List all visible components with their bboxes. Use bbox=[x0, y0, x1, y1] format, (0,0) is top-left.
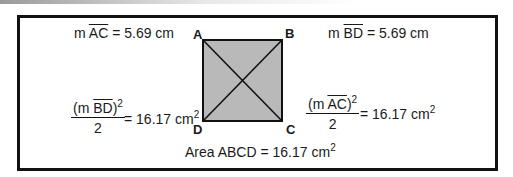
vertex-b-label: B bbox=[285, 27, 294, 41]
segment-ac: AC bbox=[89, 25, 108, 41]
measure-ac: m AC = 5.69 cm bbox=[74, 25, 174, 41]
segment-bd: BD bbox=[344, 25, 363, 41]
formula-left-result: = 16.17 cm2 bbox=[124, 111, 199, 127]
measure-bd-value: = 5.69 cm bbox=[367, 25, 429, 41]
measure-ac-prefix: m bbox=[74, 25, 86, 41]
formula-right-result: = 16.17 cm2 bbox=[360, 106, 435, 122]
vertex-c-label: C bbox=[286, 123, 295, 137]
formula-right-fraction: (m AC)2 2 bbox=[306, 96, 359, 132]
formula-right-numerator: (m AC)2 bbox=[306, 96, 359, 114]
formula-right-denominator: 2 bbox=[306, 114, 359, 132]
measure-bd-prefix: m bbox=[328, 25, 340, 41]
area-statement: Area ABCD = 16.17 cm2 bbox=[185, 144, 336, 160]
measure-ac-value: = 5.69 cm bbox=[112, 25, 174, 41]
formula-left-denominator: 2 bbox=[71, 118, 125, 136]
vertex-a-label: A bbox=[193, 28, 202, 42]
formula-left-fraction: (m BD)2 2 bbox=[71, 100, 125, 136]
formula-left-numerator: (m BD)2 bbox=[71, 100, 125, 118]
measure-bd: m BD = 5.69 cm bbox=[328, 25, 429, 41]
